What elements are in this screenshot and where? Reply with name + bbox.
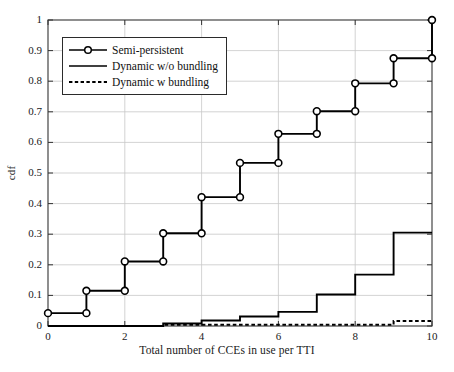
data-point-marker bbox=[429, 17, 436, 24]
legend-item-dynamic-w-bundling: Dynamic w bundling bbox=[68, 74, 218, 90]
data-point-marker bbox=[237, 160, 244, 167]
data-point-marker bbox=[83, 287, 90, 294]
y-axis-label: cdf bbox=[5, 153, 17, 193]
y-tick-label: 0.6 bbox=[8, 135, 42, 147]
data-point-marker bbox=[237, 194, 244, 201]
legend-swatch-dynamic-w-bundling bbox=[68, 75, 108, 89]
x-tick-label: 10 bbox=[417, 330, 447, 342]
data-point-marker bbox=[121, 258, 128, 265]
x-tick-label: 2 bbox=[110, 330, 140, 342]
y-tick-label: 0.8 bbox=[8, 74, 42, 86]
data-point-marker bbox=[45, 310, 52, 317]
legend-label-dynamic-w-bundling: Dynamic w bundling bbox=[112, 75, 209, 89]
chart-legend: Semi-persistent Dynamic w/o bundling Dyn… bbox=[62, 37, 227, 95]
data-point-marker bbox=[121, 287, 128, 294]
legend-label-dynamic-wo-bundling: Dynamic w/o bundling bbox=[112, 59, 218, 73]
data-point-marker bbox=[390, 55, 397, 62]
cdf-chart-figure: 00.10.20.30.40.50.60.70.80.91 0246810 cd… bbox=[0, 0, 454, 372]
x-tick-label: 6 bbox=[263, 330, 293, 342]
y-tick-label: 0.9 bbox=[8, 44, 42, 56]
data-point-marker bbox=[160, 230, 167, 237]
data-point-marker bbox=[160, 258, 167, 265]
legend-swatch-dynamic-wo-bundling bbox=[68, 59, 108, 73]
x-tick-label: 4 bbox=[187, 330, 217, 342]
y-tick-label: 1 bbox=[8, 13, 42, 25]
data-point-marker bbox=[352, 108, 359, 115]
y-tick-label: 0.3 bbox=[8, 227, 42, 239]
x-axis-label: Total number of CCEs in use per TTI bbox=[0, 344, 454, 356]
data-point-marker bbox=[429, 55, 436, 62]
y-tick-label: 0.4 bbox=[8, 197, 42, 209]
data-point-marker bbox=[275, 160, 282, 167]
data-point-marker bbox=[313, 130, 320, 137]
legend-label-semi-persistent: Semi-persistent bbox=[112, 43, 184, 57]
x-tick-label: 0 bbox=[33, 330, 63, 342]
y-tick-label: 0.7 bbox=[8, 105, 42, 117]
data-point-marker bbox=[390, 80, 397, 87]
legend-item-dynamic-wo-bundling: Dynamic w/o bundling bbox=[68, 58, 218, 74]
data-point-marker bbox=[198, 230, 205, 237]
data-point-marker bbox=[352, 80, 359, 87]
legend-item-semi-persistent: Semi-persistent bbox=[68, 42, 218, 58]
data-point-marker bbox=[313, 108, 320, 115]
data-point-marker bbox=[83, 310, 90, 317]
x-tick-label: 8 bbox=[340, 330, 370, 342]
y-tick-label: 0.2 bbox=[8, 258, 42, 270]
y-tick-label: 0.1 bbox=[8, 288, 42, 300]
legend-swatch-semi-persistent bbox=[68, 43, 108, 57]
data-point-marker bbox=[275, 130, 282, 137]
data-point-marker bbox=[198, 194, 205, 201]
